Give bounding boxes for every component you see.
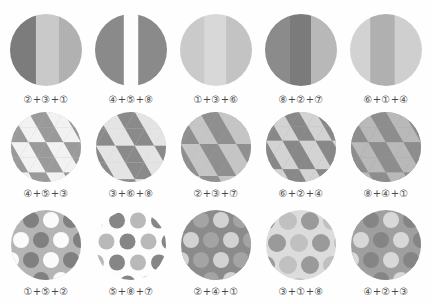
swatch-triangles-5[interactable]: [351, 112, 421, 182]
swatch-caption: ⑧+②+⑦: [278, 93, 323, 106]
swatch-dots-2[interactable]: [96, 210, 166, 280]
dots-row: ①+⑤+② ⑤+⑧+⑦ ②+④+① ③+①+⑧ ④+②+③: [0, 206, 432, 304]
swatch-dots-4[interactable]: [266, 210, 336, 280]
swatch-cell[interactable]: ①+③+⑥: [174, 14, 258, 106]
swatch-cell[interactable]: ⑧+④+①: [344, 112, 428, 200]
swatch-cell[interactable]: ②+③+⑦: [174, 112, 258, 200]
swatch-caption: ①+⑤+②: [23, 285, 68, 298]
swatch-caption: ①+③+⑥: [193, 93, 238, 106]
swatch-cell[interactable]: ②+④+①: [174, 210, 258, 298]
swatch-caption: ②+③+①: [23, 93, 68, 106]
swatch-cell[interactable]: ⑥+②+④: [259, 112, 343, 200]
swatch-cell[interactable]: ⑥+①+④: [344, 14, 428, 106]
swatch-cell[interactable]: ③+⑥+⑧: [89, 112, 173, 200]
swatch-cell[interactable]: ②+③+①: [4, 14, 88, 106]
swatch-caption: ④+⑤+⑧: [108, 93, 153, 106]
swatch-caption: ⑥+①+④: [363, 93, 408, 106]
swatch-stripes-4[interactable]: [265, 14, 337, 86]
swatch-caption: ③+⑥+⑧: [108, 187, 153, 200]
swatch-dots-3[interactable]: [181, 210, 251, 280]
swatch-cell[interactable]: ④+②+③: [344, 210, 428, 298]
swatch-caption: ⑥+②+④: [278, 187, 323, 200]
swatch-caption: ⑤+⑧+⑦: [108, 285, 153, 298]
swatch-stripes-5[interactable]: [350, 14, 422, 86]
swatch-cell[interactable]: ①+⑤+②: [4, 210, 88, 298]
swatch-cell[interactable]: ④+⑤+⑧: [89, 14, 173, 106]
swatch-triangles-1[interactable]: [11, 112, 81, 182]
pattern-sheet: ②+③+① ④+⑤+⑧ ①+③+⑥ ⑧+②+⑦ ⑥+①+④: [0, 0, 432, 304]
swatch-caption: ②+③+⑦: [193, 187, 238, 200]
swatch-caption: ②+④+①: [193, 285, 238, 298]
swatch-stripes-3[interactable]: [180, 14, 252, 86]
swatch-cell[interactable]: ④+⑤+③: [4, 112, 88, 200]
swatch-triangles-4[interactable]: [266, 112, 336, 182]
swatch-dots-1[interactable]: [11, 210, 81, 280]
stripes-row: ②+③+① ④+⑤+⑧ ①+③+⑥ ⑧+②+⑦ ⑥+①+④: [0, 0, 432, 108]
swatch-stripes-1[interactable]: [10, 14, 82, 86]
swatch-cell[interactable]: ⑤+⑧+⑦: [89, 210, 173, 298]
swatch-caption: ③+①+⑧: [278, 285, 323, 298]
swatch-stripes-2[interactable]: [95, 14, 167, 86]
swatch-caption: ④+②+③: [363, 285, 408, 298]
swatch-cell[interactable]: ⑧+②+⑦: [259, 14, 343, 106]
swatch-triangles-2[interactable]: [96, 112, 166, 182]
swatch-caption: ⑧+④+①: [363, 187, 408, 200]
swatch-grid: ②+③+① ④+⑤+⑧ ①+③+⑥ ⑧+②+⑦ ⑥+①+④: [0, 0, 432, 304]
triangles-row: ④+⑤+③ ③+⑥+⑧ ②+③+⑦ ⑥+②+④ ⑧+④+①: [0, 108, 432, 206]
swatch-caption: ④+⑤+③: [23, 187, 68, 200]
swatch-triangles-3[interactable]: [181, 112, 251, 182]
swatch-dots-5[interactable]: [351, 210, 421, 280]
swatch-cell[interactable]: ③+①+⑧: [259, 210, 343, 298]
